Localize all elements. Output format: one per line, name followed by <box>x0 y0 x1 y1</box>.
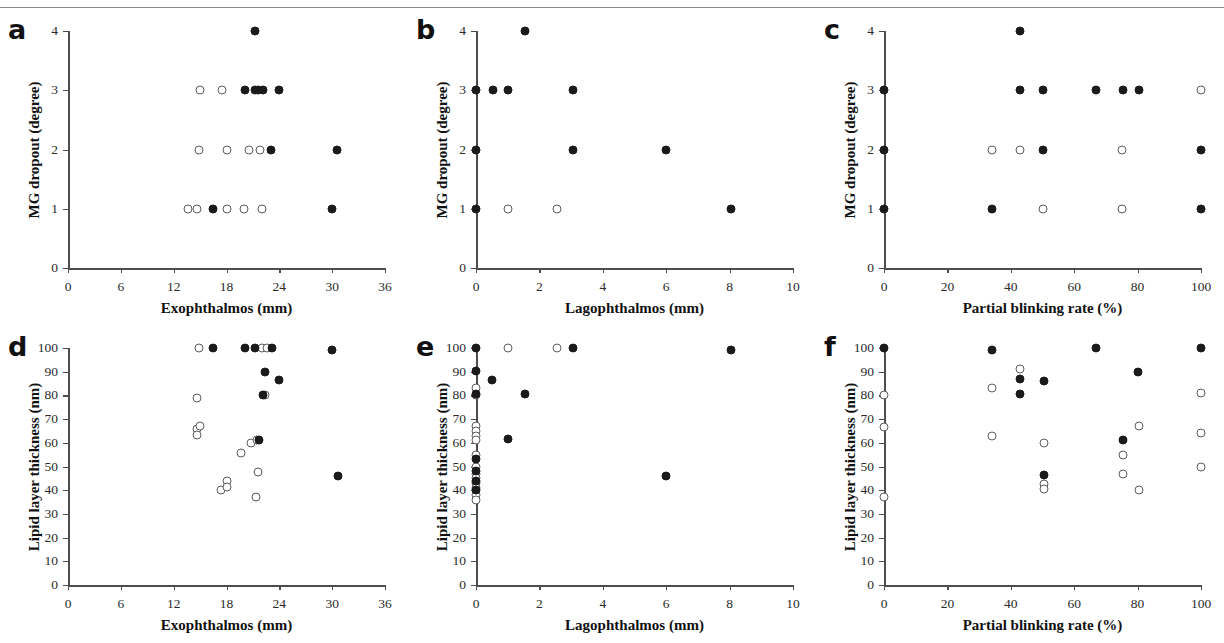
data-point-e-filled <box>472 486 481 495</box>
x-tick-label-d: 0 <box>65 597 72 611</box>
x-tick-label-c: 100 <box>1191 280 1211 294</box>
x-axis-line-c <box>884 268 1201 270</box>
data-point-e-filled <box>521 390 530 399</box>
data-point-c-open <box>1038 204 1047 213</box>
data-point-b-filled <box>489 86 498 95</box>
x-tick-label-f: 80 <box>1131 597 1145 611</box>
data-point-f-open <box>1135 486 1144 495</box>
data-point-e-open <box>472 495 481 504</box>
x-tick-f <box>1011 585 1012 590</box>
y-tick-f <box>879 467 884 468</box>
x-tick-a <box>332 268 333 273</box>
x-tick-label-e: 4 <box>599 597 606 611</box>
data-point-f-filled <box>987 346 996 355</box>
data-point-f-open <box>987 431 996 440</box>
x-axis-title-a: Exophthalmos (mm) <box>161 300 292 317</box>
data-point-e-filled <box>487 375 496 384</box>
y-tick-label-f: 90 <box>834 365 874 379</box>
plot-area-f: 0102030405060708090100020406080100 <box>884 348 1201 585</box>
x-tick-e <box>730 585 731 590</box>
y-tick-e <box>471 514 476 515</box>
figure-panel-grid: a01234061218243036Exophthalmos (mm)MG dr… <box>0 9 1224 643</box>
x-tick-a <box>174 268 175 273</box>
top-divider-rule <box>0 7 1224 8</box>
panel-d: d0102030405060708090100061218243036Exoph… <box>0 326 408 643</box>
x-tick-e <box>793 585 794 590</box>
data-point-a-open <box>257 204 266 213</box>
x-tick-label-f: 100 <box>1191 597 1211 611</box>
x-tick-b <box>603 268 604 273</box>
data-point-b-open <box>503 204 512 213</box>
y-tick-e <box>471 561 476 562</box>
y-tick-f <box>879 443 884 444</box>
x-tick-label-c: 0 <box>881 280 888 294</box>
y-tick-label-d: 10 <box>18 555 58 569</box>
x-tick-label-f: 40 <box>1004 597 1018 611</box>
data-point-f-open <box>1119 469 1128 478</box>
panel-f: f0102030405060708090100020406080100Parti… <box>816 326 1224 643</box>
data-point-d-filled <box>240 344 249 353</box>
data-point-d-filled <box>334 471 343 480</box>
data-point-f-filled <box>1197 344 1206 353</box>
data-point-d-open <box>252 493 261 502</box>
y-axis-title-c: MG dropout (degree) <box>842 81 859 218</box>
x-tick-e <box>666 585 667 590</box>
data-point-a-filled <box>328 204 337 213</box>
data-point-e-filled <box>662 471 671 480</box>
x-tick-a <box>121 268 122 273</box>
y-tick-label-c: 4 <box>834 24 874 38</box>
data-point-e-filled <box>472 467 481 476</box>
data-point-b-open <box>552 204 561 213</box>
data-point-a-filled <box>333 145 342 154</box>
x-tick-label-b: 2 <box>536 280 543 294</box>
x-tick-c <box>1074 268 1075 273</box>
y-axis-line-d <box>68 348 70 585</box>
x-tick-label-d: 18 <box>220 597 234 611</box>
plot-area-c: 01234020406080100 <box>884 31 1201 268</box>
x-tick-c <box>947 268 948 273</box>
data-point-e-filled <box>472 390 481 399</box>
data-point-d-filled <box>275 375 284 384</box>
y-tick-d <box>63 561 68 562</box>
data-point-e-filled <box>472 455 481 464</box>
data-point-a-open <box>195 145 204 154</box>
y-axis-line-a <box>68 31 70 268</box>
y-tick-label-a: 4 <box>18 24 58 38</box>
x-tick-label-a: 12 <box>167 280 181 294</box>
y-tick-a <box>63 90 68 91</box>
x-tick-label-a: 18 <box>220 280 234 294</box>
data-point-a-open <box>183 204 192 213</box>
y-axis-title-f: Lipid layer thickness (nm) <box>842 382 859 551</box>
x-tick-label-e: 0 <box>473 597 480 611</box>
x-tick-label-c: 80 <box>1131 280 1145 294</box>
data-point-c-open <box>1197 86 1206 95</box>
data-point-d-open <box>192 393 201 402</box>
x-tick-label-a: 6 <box>117 280 124 294</box>
data-point-f-open <box>1016 365 1025 374</box>
x-axis-title-f: Partial blinking rate (%) <box>963 617 1123 634</box>
y-tick-d <box>63 538 68 539</box>
x-tick-label-f: 20 <box>941 597 955 611</box>
data-point-a-open <box>255 145 264 154</box>
data-point-a-filled <box>266 145 275 154</box>
y-tick-f <box>879 538 884 539</box>
data-point-a-open <box>222 204 231 213</box>
x-tick-f <box>1074 585 1075 590</box>
x-tick-label-f: 60 <box>1067 597 1081 611</box>
data-point-f-open <box>880 391 889 400</box>
x-tick-label-a: 36 <box>378 280 392 294</box>
plot-area-b: 012340246810 <box>476 31 793 268</box>
data-point-d-filled <box>268 344 277 353</box>
x-tick-label-e: 2 <box>536 597 543 611</box>
x-tick-e <box>539 585 540 590</box>
x-tick-d <box>227 585 228 590</box>
data-point-f-open <box>1040 485 1049 494</box>
data-point-c-open <box>1117 145 1126 154</box>
data-point-b-filled <box>727 204 736 213</box>
y-tick-e <box>471 538 476 539</box>
x-tick-a <box>279 268 280 273</box>
y-axis-title-b: MG dropout (degree) <box>434 81 451 218</box>
data-point-d-filled <box>255 436 264 445</box>
x-tick-e <box>476 585 477 590</box>
x-tick-d <box>121 585 122 590</box>
